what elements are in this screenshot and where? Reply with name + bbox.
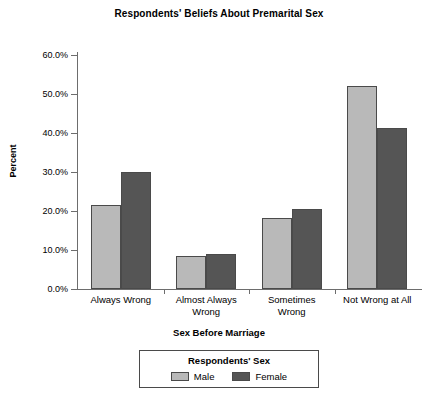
bar-female-almost-always-wrong	[206, 254, 236, 289]
y-axis-tick	[71, 172, 78, 173]
y-axis-tick-label: 30.0%	[12, 167, 68, 177]
bar-female-not-wrong-at-all	[377, 128, 407, 289]
x-axis-tick-label: Not Wrong at All	[327, 294, 429, 306]
y-axis-tick-label: 60.0%	[12, 50, 68, 60]
legend-title: Respondents' Sex	[140, 355, 318, 366]
y-axis-labels: 0.0%10.0%20.0%30.0%40.0%50.0%60.0%	[8, 0, 68, 405]
bar-female-sometimes-wrong	[292, 209, 322, 289]
bar-male-not-wrong-at-all	[347, 86, 377, 289]
y-axis-tick-label: 20.0%	[12, 206, 68, 216]
bar-male-sometimes-wrong	[262, 218, 292, 289]
legend-item-male[interactable]: Male	[171, 371, 215, 382]
y-axis-tick-label: 10.0%	[12, 245, 68, 255]
bar-male-almost-always-wrong	[176, 256, 206, 289]
x-axis-tick-label-line: Wrong	[241, 306, 343, 318]
legend-items: MaleFemale	[140, 371, 318, 382]
legend: Respondents' Sex MaleFemale	[139, 350, 319, 388]
y-axis-tick-label: 0.0%	[12, 284, 68, 294]
y-axis-tick	[71, 94, 78, 95]
y-axis-tick	[71, 211, 78, 212]
y-axis-title: Percent	[8, 126, 18, 196]
x-axis-tick	[249, 289, 250, 294]
legend-label: Male	[194, 371, 215, 382]
y-axis-tick	[71, 133, 78, 134]
x-axis-title: Sex Before Marriage	[0, 327, 438, 338]
legend-swatch-male	[171, 372, 189, 381]
bar-chart: Respondents' Beliefs About Premarital Se…	[0, 0, 438, 405]
x-axis-tick	[335, 289, 336, 294]
x-axis-tick	[164, 289, 165, 294]
x-axis-tick-label-line: Not Wrong at All	[327, 294, 429, 306]
y-axis-tick	[71, 289, 78, 290]
plot-area	[78, 55, 420, 289]
y-axis-tick-label: 40.0%	[12, 128, 68, 138]
bar-male-always-wrong	[91, 205, 121, 289]
bar-female-always-wrong	[121, 172, 151, 289]
legend-swatch-female	[232, 372, 250, 381]
y-axis-tick	[71, 55, 78, 56]
y-axis-tick-label: 50.0%	[12, 89, 68, 99]
legend-label: Female	[255, 371, 287, 382]
y-axis-tick	[71, 250, 78, 251]
legend-item-female[interactable]: Female	[232, 371, 287, 382]
